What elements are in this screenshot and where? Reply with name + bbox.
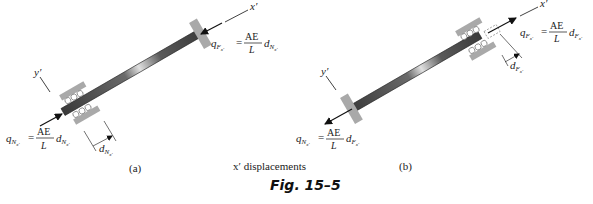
svg-text:=: = [236, 36, 242, 48]
svg-text:qFx′: qFx′ [211, 37, 225, 52]
far-end-force-arrow [201, 23, 222, 34]
figure-caption: Fig. 15–5 [270, 177, 341, 193]
svg-text:AE: AE [37, 126, 50, 137]
svg-text:L: L [248, 44, 255, 55]
truss-member [348, 32, 482, 114]
x-axis-line [520, 7, 538, 16]
svg-text:qFx′: qFx′ [520, 26, 534, 41]
near-end-force-equation: qNx′ = AE L dFx′ [296, 127, 360, 151]
figure-15-5: x′ y′ [0, 0, 593, 204]
svg-text:dFx′: dFx′ [346, 132, 360, 147]
svg-text:qNx′: qNx′ [6, 132, 20, 147]
x-axis-label: x′ [539, 0, 548, 9]
panel-b-label: (b) [399, 160, 412, 173]
far-end-force-equation: qFx′ = AE L dFx′ [520, 20, 583, 44]
near-end-force-equation: qNx′ = AE L dNx′ [6, 126, 70, 151]
svg-text:L: L [330, 140, 337, 151]
truss-member [61, 29, 204, 116]
svg-text:dNx′: dNx′ [264, 37, 278, 52]
panel-a: x′ y′ [6, 0, 278, 175]
svg-text:AE: AE [550, 20, 563, 31]
displacement-label: dNx′ [99, 142, 113, 157]
svg-text:dNx′: dNx′ [56, 132, 70, 147]
figure-subtitle: x′ displacements [233, 160, 306, 172]
y-axis-label: y′ [33, 66, 42, 78]
near-end-force-arrow [40, 114, 62, 126]
panel-b: x′ y′ [296, 0, 583, 173]
y-axis-label: y′ [320, 65, 329, 77]
far-end-force-arrow [488, 18, 516, 33]
svg-text:=: = [541, 25, 547, 37]
svg-text:=: = [318, 131, 324, 143]
near-end-force-arrow [325, 109, 352, 124]
y-axis-line [40, 77, 50, 92]
svg-text:=: = [28, 131, 34, 143]
x-axis-label: x′ [249, 0, 258, 12]
svg-text:AE: AE [245, 31, 258, 42]
x-axis-line [225, 10, 248, 22]
far-end-force-equation: qFx′ = AE L dNx′ [211, 31, 278, 55]
svg-text:L: L [553, 33, 560, 44]
panel-a-label: (a) [129, 162, 142, 175]
svg-text:dFx′: dFx′ [569, 26, 583, 41]
svg-text:qNx′: qNx′ [296, 132, 310, 147]
y-axis-line [326, 76, 336, 90]
svg-text:AE: AE [327, 127, 340, 138]
svg-text:L: L [40, 140, 47, 151]
displacement-label: dFx′ [510, 59, 524, 74]
